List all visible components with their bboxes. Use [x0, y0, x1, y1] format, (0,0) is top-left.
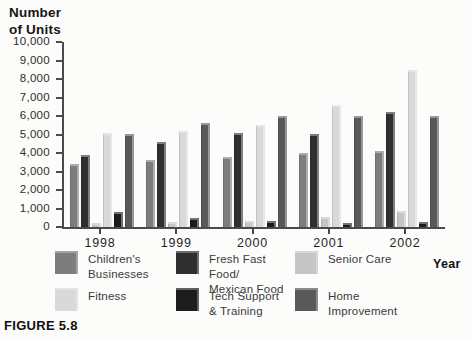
bar-senior-care-1999 — [168, 222, 177, 227]
figure-caption: FIGURE 5.8 — [4, 318, 78, 333]
legend-item-senior-care: Senior Care — [295, 251, 445, 288]
x-tick-mark — [328, 229, 330, 234]
bar-children-s-businesses-1998 — [70, 164, 79, 227]
bar-fitness-2000 — [256, 125, 265, 227]
legend-item-tech-support-training: Tech Support & Training — [176, 288, 295, 319]
plot-area — [62, 42, 445, 229]
y-axis: 10,0009,0008,0007,0006,0005,0004,0003,00… — [0, 42, 62, 227]
x-tick-label: 1999 — [138, 236, 214, 250]
bar-senior-care-2000 — [245, 221, 254, 227]
bar-children-s-businesses-2000 — [223, 157, 232, 227]
legend-swatch — [176, 251, 199, 274]
bar-home-improvement-2002 — [430, 116, 439, 227]
bar-group-1998 — [64, 42, 140, 227]
bar-senior-care-2001 — [321, 217, 330, 227]
y-tick-label: 10,000 — [2, 35, 50, 47]
bar-fitness-1999 — [179, 131, 188, 227]
bar-tech-support-training-2001 — [343, 223, 352, 227]
x-category-1999: 1999 — [138, 229, 214, 250]
y-tick-label: 6,000 — [2, 109, 50, 121]
legend-swatch — [295, 288, 318, 311]
bar-home-improvement-2000 — [278, 116, 287, 227]
x-category-2002: 2002 — [367, 229, 443, 250]
bar-fitness-2002 — [408, 70, 417, 227]
bar-children-s-businesses-2001 — [299, 153, 308, 227]
legend-swatch — [55, 251, 78, 274]
legend-item-home-improvement: Home Improvement — [295, 288, 445, 319]
bar-group-2001 — [293, 42, 369, 227]
x-category-2001: 2001 — [291, 229, 367, 250]
legend-label: Home Improvement — [328, 288, 397, 319]
bar-home-improvement-1998 — [125, 134, 134, 227]
y-tick-label: 4,000 — [2, 146, 50, 158]
x-tick-label: 2002 — [367, 236, 443, 250]
bar-group-2000 — [216, 42, 292, 227]
legend-label: Children's Businesses — [88, 251, 149, 282]
x-tick-mark — [175, 229, 177, 234]
legend-label: Senior Care — [328, 251, 392, 267]
y-tick-label: 2,000 — [2, 183, 50, 195]
bar-home-improvement-2001 — [354, 116, 363, 227]
bar-fitness-2001 — [332, 105, 341, 227]
x-tick-mark — [99, 229, 101, 234]
bar-fresh-fast-food-mexican-food-2002 — [386, 112, 395, 227]
legend-item-fitness: Fitness — [55, 288, 176, 319]
bar-fresh-fast-food-mexican-food-1999 — [157, 142, 166, 227]
x-axis-title: Year — [433, 257, 461, 271]
x-tick-mark — [252, 229, 254, 234]
bar-fresh-fast-food-mexican-food-2001 — [310, 134, 319, 227]
legend-label: Tech Support & Training — [209, 288, 279, 319]
x-category-1998: 1998 — [62, 229, 138, 250]
legend-label: Fitness — [88, 288, 126, 304]
x-tick-mark — [404, 229, 406, 234]
bar-fresh-fast-food-mexican-food-1998 — [81, 155, 90, 227]
y-tick-label: 7,000 — [2, 91, 50, 103]
bar-tech-support-training-1999 — [190, 218, 199, 227]
bar-home-improvement-1999 — [201, 123, 210, 227]
x-tick-label: 2000 — [214, 236, 290, 250]
bar-senior-care-1998 — [92, 223, 101, 227]
bar-fresh-fast-food-mexican-food-2000 — [234, 133, 243, 227]
bar-tech-support-training-1998 — [114, 212, 123, 227]
y-tick-label: 8,000 — [2, 72, 50, 84]
bar-group-2002 — [369, 42, 445, 227]
figure-page: Number of Units 10,0009,0008,0007,0006,0… — [0, 0, 472, 338]
y-tick-label: 9,000 — [2, 54, 50, 66]
bar-group-1999 — [140, 42, 216, 227]
x-category-2000: 2000 — [214, 229, 290, 250]
x-tick-label: 1998 — [62, 236, 138, 250]
bar-children-s-businesses-1999 — [146, 160, 155, 227]
bar-tech-support-training-2002 — [419, 222, 428, 227]
bar-fitness-1998 — [103, 133, 112, 227]
y-tick-label: 3,000 — [2, 165, 50, 177]
y-tick-label: 0 — [2, 220, 50, 232]
bar-groups — [64, 42, 445, 227]
legend-item-children-s-businesses: Children's Businesses — [55, 251, 176, 288]
chart-title: Number of Units — [9, 4, 61, 39]
y-tick-label: 1,000 — [2, 202, 50, 214]
legend-swatch — [295, 251, 318, 274]
x-tick-label: 2001 — [291, 236, 367, 250]
legend-swatch — [55, 288, 78, 311]
legend-swatch — [176, 288, 199, 311]
y-tick-label: 5,000 — [2, 128, 50, 140]
bar-tech-support-training-2000 — [267, 221, 276, 227]
legend: Children's BusinessesFresh Fast Food/ Me… — [55, 251, 445, 319]
legend-item-fresh-fast-food-mexican-food: Fresh Fast Food/ Mexican Food — [176, 251, 295, 288]
bar-senior-care-2002 — [397, 211, 406, 227]
bar-children-s-businesses-2002 — [375, 151, 384, 227]
x-axis: 19981999200020012002 — [62, 229, 443, 250]
